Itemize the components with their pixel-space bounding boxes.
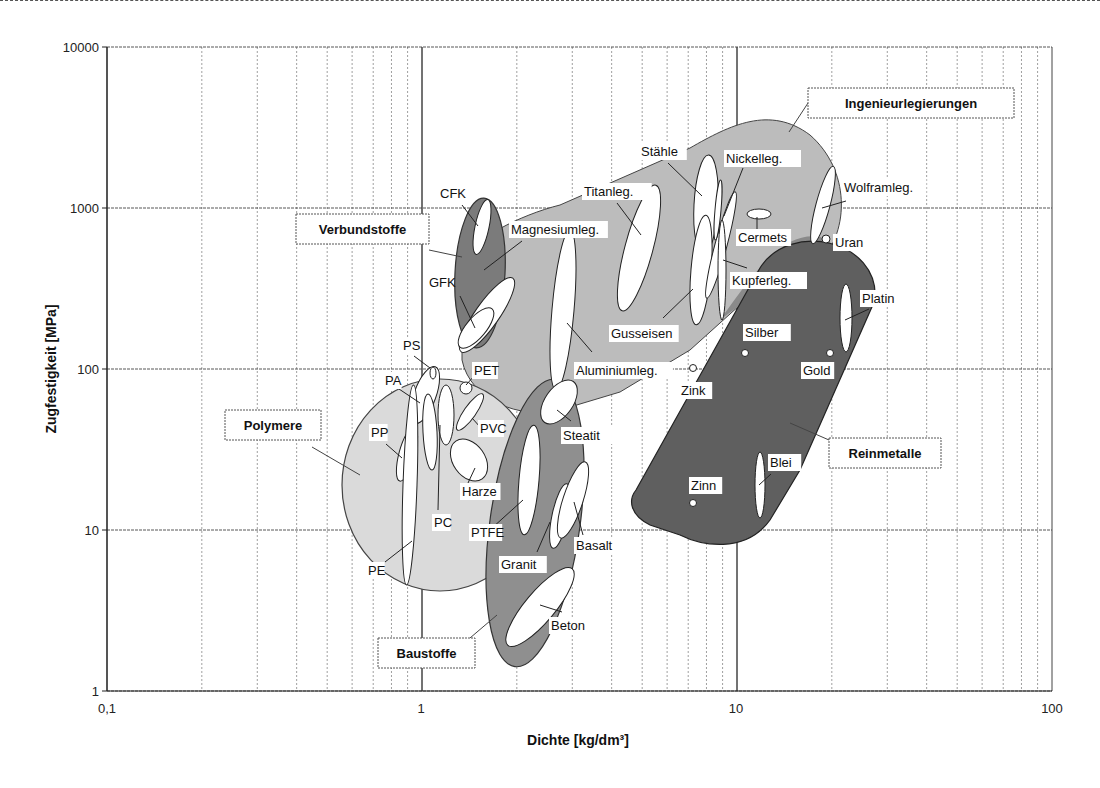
- material-label-pp: PP: [371, 425, 388, 440]
- material-label-uran: Uran: [835, 235, 863, 250]
- material-label-sthle: Stähle: [641, 144, 678, 159]
- material-label-blei: Blei: [770, 455, 792, 470]
- group-label-verbundstoffe: Verbundstoffe: [319, 222, 406, 237]
- ellipse-kupfer: [718, 220, 726, 320]
- y-tick-label: 1000: [70, 201, 99, 216]
- ellipse-ps: [430, 367, 436, 379]
- material-label-beton: Beton: [551, 618, 585, 633]
- y-axis-title: Zugfestigkeit [MPa]: [43, 304, 59, 433]
- material-label-gusseisen: Gusseisen: [611, 326, 672, 341]
- point-silber: [742, 350, 749, 357]
- material-label-pvc: PVC: [480, 421, 507, 436]
- ashby-chart: 0,1110100 100001000100101 CFKGFKMagnesiu…: [0, 0, 1100, 788]
- x-tick-labels: 0,1110100: [98, 701, 1063, 716]
- group-label-baustoffe: Baustoffe: [397, 646, 457, 661]
- material-label-zinn: Zinn: [691, 478, 716, 493]
- ellipse-cermets: [747, 209, 771, 219]
- group-label-polymere: Polymere: [244, 418, 303, 433]
- material-label-zink: Zink: [681, 383, 706, 398]
- material-label-ps: PS: [403, 338, 421, 353]
- y-tick-label: 1: [92, 684, 99, 699]
- material-label-basalt: Basalt: [576, 538, 613, 553]
- material-label-aluminiumleg: Aluminiumleg.: [576, 363, 658, 378]
- material-label-pet: PET: [474, 363, 499, 378]
- ellipse-blei: [755, 452, 765, 518]
- material-label-steatit: Steatit: [563, 428, 600, 443]
- material-label-granit: Granit: [501, 557, 537, 572]
- material-label-gold: Gold: [803, 363, 830, 378]
- ellipse-pc: [438, 385, 454, 445]
- group-label-ingenieurlegierungen: Ingenieurlegierungen: [845, 96, 977, 111]
- y-tick-label: 100: [77, 362, 99, 377]
- material-label-magnesiumleg: Magnesiumleg.: [511, 222, 599, 237]
- material-label-platin: Platin: [862, 291, 895, 306]
- x-tick-label: 10: [729, 701, 743, 716]
- material-label-kupferleg: Kupferleg.: [732, 273, 791, 288]
- y-tick-labels: 100001000100101: [63, 40, 107, 699]
- material-label-nickelleg: Nickelleg.: [726, 151, 782, 166]
- material-label-titanleg: Titanleg.: [584, 184, 633, 199]
- material-label-gfk: GFK: [429, 275, 456, 290]
- ellipse-pet: [460, 382, 472, 394]
- point-zink: [690, 365, 697, 372]
- x-tick-label: 100: [1041, 701, 1063, 716]
- group-label-reinmetalle: Reinmetalle: [849, 446, 922, 461]
- point-zinn: [690, 500, 697, 507]
- material-label-wolframleg: Wolframleg.: [844, 180, 913, 195]
- material-label-cfk: CFK: [440, 186, 466, 201]
- material-label-pe: PE: [368, 563, 386, 578]
- material-label-ptfe: PTFE: [471, 525, 505, 540]
- point-gold: [827, 350, 834, 357]
- material-label-cermets: Cermets: [738, 230, 788, 245]
- x-tick-label: 1: [417, 701, 424, 716]
- material-label-pa: PA: [385, 373, 402, 388]
- x-axis-title: Dichte [kg/dm³]: [527, 732, 629, 748]
- y-tick-label: 10000: [63, 40, 99, 55]
- y-tick-label: 10: [85, 523, 99, 538]
- material-label-silber: Silber: [745, 325, 779, 340]
- material-label-pc: PC: [434, 515, 452, 530]
- point-uran: [822, 235, 830, 243]
- material-label-harze: Harze: [462, 484, 497, 499]
- x-tick-label: 0,1: [98, 701, 116, 716]
